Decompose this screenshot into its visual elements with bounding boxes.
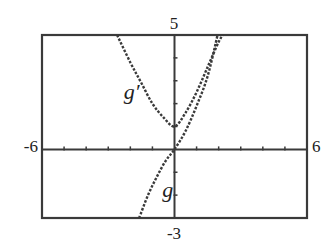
ymax-label: 5 [170, 14, 179, 33]
g-prime-label: g′ [124, 79, 141, 104]
xmax-label: 6 [312, 137, 321, 156]
xmin-label: -6 [24, 137, 38, 156]
graph: 5 -3 -6 6 g′ g [0, 0, 335, 251]
g-curve [139, 35, 217, 218]
ymin-label: -3 [167, 224, 181, 243]
g-label: g [162, 177, 173, 202]
